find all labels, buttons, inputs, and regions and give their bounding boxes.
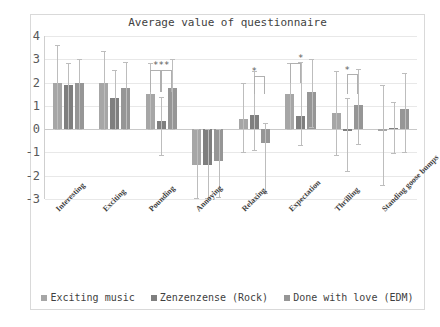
error-bar: [394, 102, 395, 153]
error-bar: [104, 51, 105, 129]
error-bar: [68, 63, 69, 129]
gridline: [45, 199, 417, 200]
error-bar-cap: [170, 59, 175, 60]
error-bar-cap: [112, 70, 117, 71]
error-bar: [161, 97, 162, 155]
y-axis-tick-label: 3: [33, 52, 40, 66]
error-bar: [405, 73, 406, 152]
error-bar-cap: [66, 129, 71, 130]
plot-area: ******: [45, 36, 417, 199]
error-bar-cap: [216, 129, 221, 130]
error-bar-cap: [123, 129, 128, 130]
error-bar-cap: [123, 62, 128, 63]
error-bar: [301, 62, 302, 146]
gridline: [45, 176, 417, 177]
error-bar-cap: [287, 129, 292, 130]
legend-item: Exciting music: [41, 292, 134, 303]
error-bar: [383, 85, 384, 185]
error-bar: [312, 59, 313, 127]
error-bar: [79, 59, 80, 129]
error-bar-cap: [391, 102, 396, 103]
significance-star: ***: [153, 60, 169, 70]
error-bar-cap: [148, 63, 153, 64]
significance-bracket: [290, 63, 301, 83]
significance-bracket: [254, 76, 265, 94]
chart-legend: Exciting musicZenzenzense (Rock)Done wit…: [30, 292, 425, 303]
legend-swatch-icon: [41, 295, 47, 301]
error-bar-cap: [298, 145, 303, 146]
y-axis-tick-label: -2: [26, 169, 40, 183]
error-bar-cap: [402, 73, 407, 74]
error-bar-cap: [194, 129, 199, 130]
error-bar-cap: [241, 83, 246, 84]
error-bar-cap: [309, 127, 314, 128]
legend-label: Exciting music: [50, 292, 134, 303]
error-bar-cap: [309, 59, 314, 60]
error-bar-cap: [391, 153, 396, 154]
error-bar-cap: [148, 129, 153, 130]
error-bar-cap: [205, 129, 210, 130]
y-axis-tick-label: 1: [33, 99, 40, 113]
error-bar-cap: [345, 98, 350, 99]
error-bar-cap: [345, 171, 350, 172]
error-bar: [197, 129, 198, 198]
error-bar: [347, 98, 348, 171]
legend-item: Zenzenzense (Rock): [151, 292, 268, 303]
error-bar-cap: [77, 59, 82, 60]
significance-bracket: [150, 70, 161, 92]
error-bar-cap: [194, 198, 199, 199]
error-bar-cap: [170, 129, 175, 130]
y-axis-tick-label: 4: [33, 29, 40, 43]
gridline: [45, 59, 417, 60]
error-bar: [243, 83, 244, 153]
error-bar-cap: [216, 197, 221, 198]
error-bar-cap: [241, 152, 246, 153]
error-bar-cap: [356, 144, 361, 145]
legend-label: Done with love (EDM): [293, 292, 413, 303]
y-axis-tick-label: 0: [33, 122, 40, 136]
error-bar-cap: [402, 152, 407, 153]
error-bar: [115, 70, 116, 129]
error-bar-cap: [263, 123, 268, 124]
significance-star: *: [252, 66, 257, 76]
error-bar: [208, 129, 209, 198]
legend-item: Done with love (EDM): [284, 292, 413, 303]
y-axis-tick-label: -3: [26, 192, 40, 206]
error-bar-cap: [334, 71, 339, 72]
y-axis-line: [44, 36, 45, 199]
error-bar-cap: [334, 155, 339, 156]
error-bar: [265, 123, 266, 193]
error-bar-cap: [380, 85, 385, 86]
error-bar-cap: [252, 150, 257, 151]
error-bar-cap: [55, 129, 60, 130]
significance-bracket: [161, 70, 172, 92]
gridline: [45, 36, 417, 37]
chart-title: Average value of questionnaire: [30, 16, 425, 29]
error-bar-cap: [356, 69, 361, 70]
significance-star: *: [298, 53, 303, 63]
significance-star: *: [345, 65, 350, 75]
y-axis-tick-label: -1: [26, 145, 40, 159]
error-bar-cap: [159, 155, 164, 156]
significance-bracket: [347, 74, 358, 94]
error-bar-cap: [77, 129, 82, 130]
error-bar: [57, 45, 58, 129]
legend-swatch-icon: [284, 295, 290, 301]
legend-swatch-icon: [151, 295, 157, 301]
error-bar-cap: [159, 97, 164, 98]
error-bar-cap: [380, 185, 385, 186]
error-bar: [336, 71, 337, 155]
error-bar-cap: [101, 129, 106, 130]
error-bar-cap: [55, 45, 60, 46]
error-bar-cap: [112, 129, 117, 130]
error-bar-cap: [101, 51, 106, 52]
gridline: [45, 152, 417, 153]
y-axis-tick-labels: 43210-1-2-3: [18, 36, 40, 199]
legend-label: Zenzenzense (Rock): [160, 292, 268, 303]
error-bar: [126, 62, 127, 130]
error-bar-cap: [66, 63, 71, 64]
y-axis-tick-label: 2: [33, 76, 40, 90]
